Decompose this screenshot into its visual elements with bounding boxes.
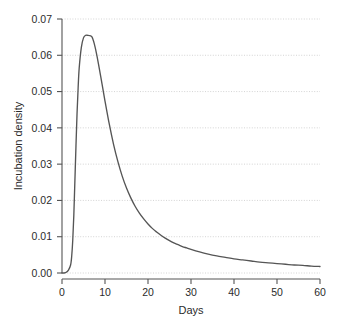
x-tick-labels-group: 0102030405060 — [59, 286, 326, 298]
y-tick-label: 0.05 — [32, 85, 53, 97]
y-tick-label: 0.02 — [32, 194, 53, 206]
y-axis-label: Incubation density — [12, 101, 24, 190]
x-tick-label: 20 — [142, 286, 154, 298]
density-curve-line — [62, 35, 320, 273]
y-tick-label: 0.00 — [32, 267, 53, 279]
x-tick-label: 40 — [228, 286, 240, 298]
x-tick-label: 60 — [314, 286, 326, 298]
y-tick-label: 0.07 — [32, 13, 53, 25]
x-tick-marks-group — [62, 279, 320, 284]
y-tick-label: 0.04 — [32, 122, 53, 134]
chart-figure: 0102030405060 0.000.010.020.030.040.050.… — [0, 0, 338, 329]
incubation-density-chart: 0102030405060 0.000.010.020.030.040.050.… — [0, 0, 338, 329]
y-tick-marks-group — [57, 19, 62, 273]
y-tick-label: 0.06 — [32, 49, 53, 61]
gridlines-group — [62, 19, 320, 273]
x-tick-label: 10 — [99, 286, 111, 298]
x-tick-label: 30 — [185, 286, 197, 298]
y-tick-labels-group: 0.000.010.020.030.040.050.060.07 — [32, 13, 53, 279]
x-tick-label: 50 — [271, 286, 283, 298]
x-axis-label: Days — [178, 304, 204, 316]
y-tick-label: 0.01 — [32, 230, 53, 242]
y-tick-label: 0.03 — [32, 158, 53, 170]
x-tick-label: 0 — [59, 286, 65, 298]
